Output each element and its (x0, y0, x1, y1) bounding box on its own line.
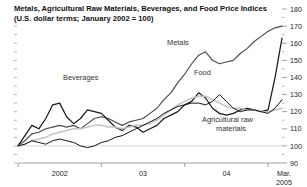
agricultural-raw-materials-label-line2: materials (216, 124, 246, 133)
y-axis-tick-labels: 90100110120130140150160170180 (290, 5, 302, 168)
y-tick-label-130: 130 (290, 90, 302, 99)
y-tick-label-140: 140 (290, 73, 302, 82)
beverages-label: Beverages (63, 73, 99, 82)
y-tick-label-120: 120 (290, 107, 302, 116)
x-tick-label-2002-01-0: 2002 (52, 169, 68, 178)
x-tick-label-2005-01-1: 2005 (276, 178, 292, 187)
agricultural-raw-materials-label-line1: Agricultural raw (202, 115, 254, 124)
y-tick-label-110: 110 (290, 124, 301, 133)
y-tick-label-170: 170 (290, 22, 302, 31)
y-tick-label-150: 150 (290, 56, 302, 65)
x-tick-label-2005-01-0: Mar. (277, 169, 291, 178)
metals-label: Metals (167, 38, 189, 47)
x-axis-tick-labels: 20020304Mar.2005 (52, 169, 292, 187)
x-tick-label-2003-01-0: 03 (139, 169, 147, 178)
y-tick-label-160: 160 (290, 39, 302, 48)
y-tick-label-100: 100 (290, 142, 302, 151)
x-tick-label-2004-01-0: 04 (222, 169, 230, 178)
y-tick-label-180: 180 (290, 5, 302, 14)
left-axis-ticks (14, 9, 17, 163)
x-axis-ticks (18, 163, 268, 167)
chart-title: Metals, Agricultural Raw Materials, Beve… (14, 4, 267, 13)
right-axis-ticks (282, 9, 287, 163)
chart-canvas: Metals, Agricultural Raw Materials, Beve… (0, 0, 307, 187)
price-indices-chart: Metals, Agricultural Raw Materials, Beve… (0, 0, 307, 187)
chart-subtitle: (U.S. dollar terms; January 2002 = 100) (14, 14, 154, 23)
y-tick-label-90: 90 (290, 159, 298, 168)
food-label: Food (194, 68, 211, 77)
